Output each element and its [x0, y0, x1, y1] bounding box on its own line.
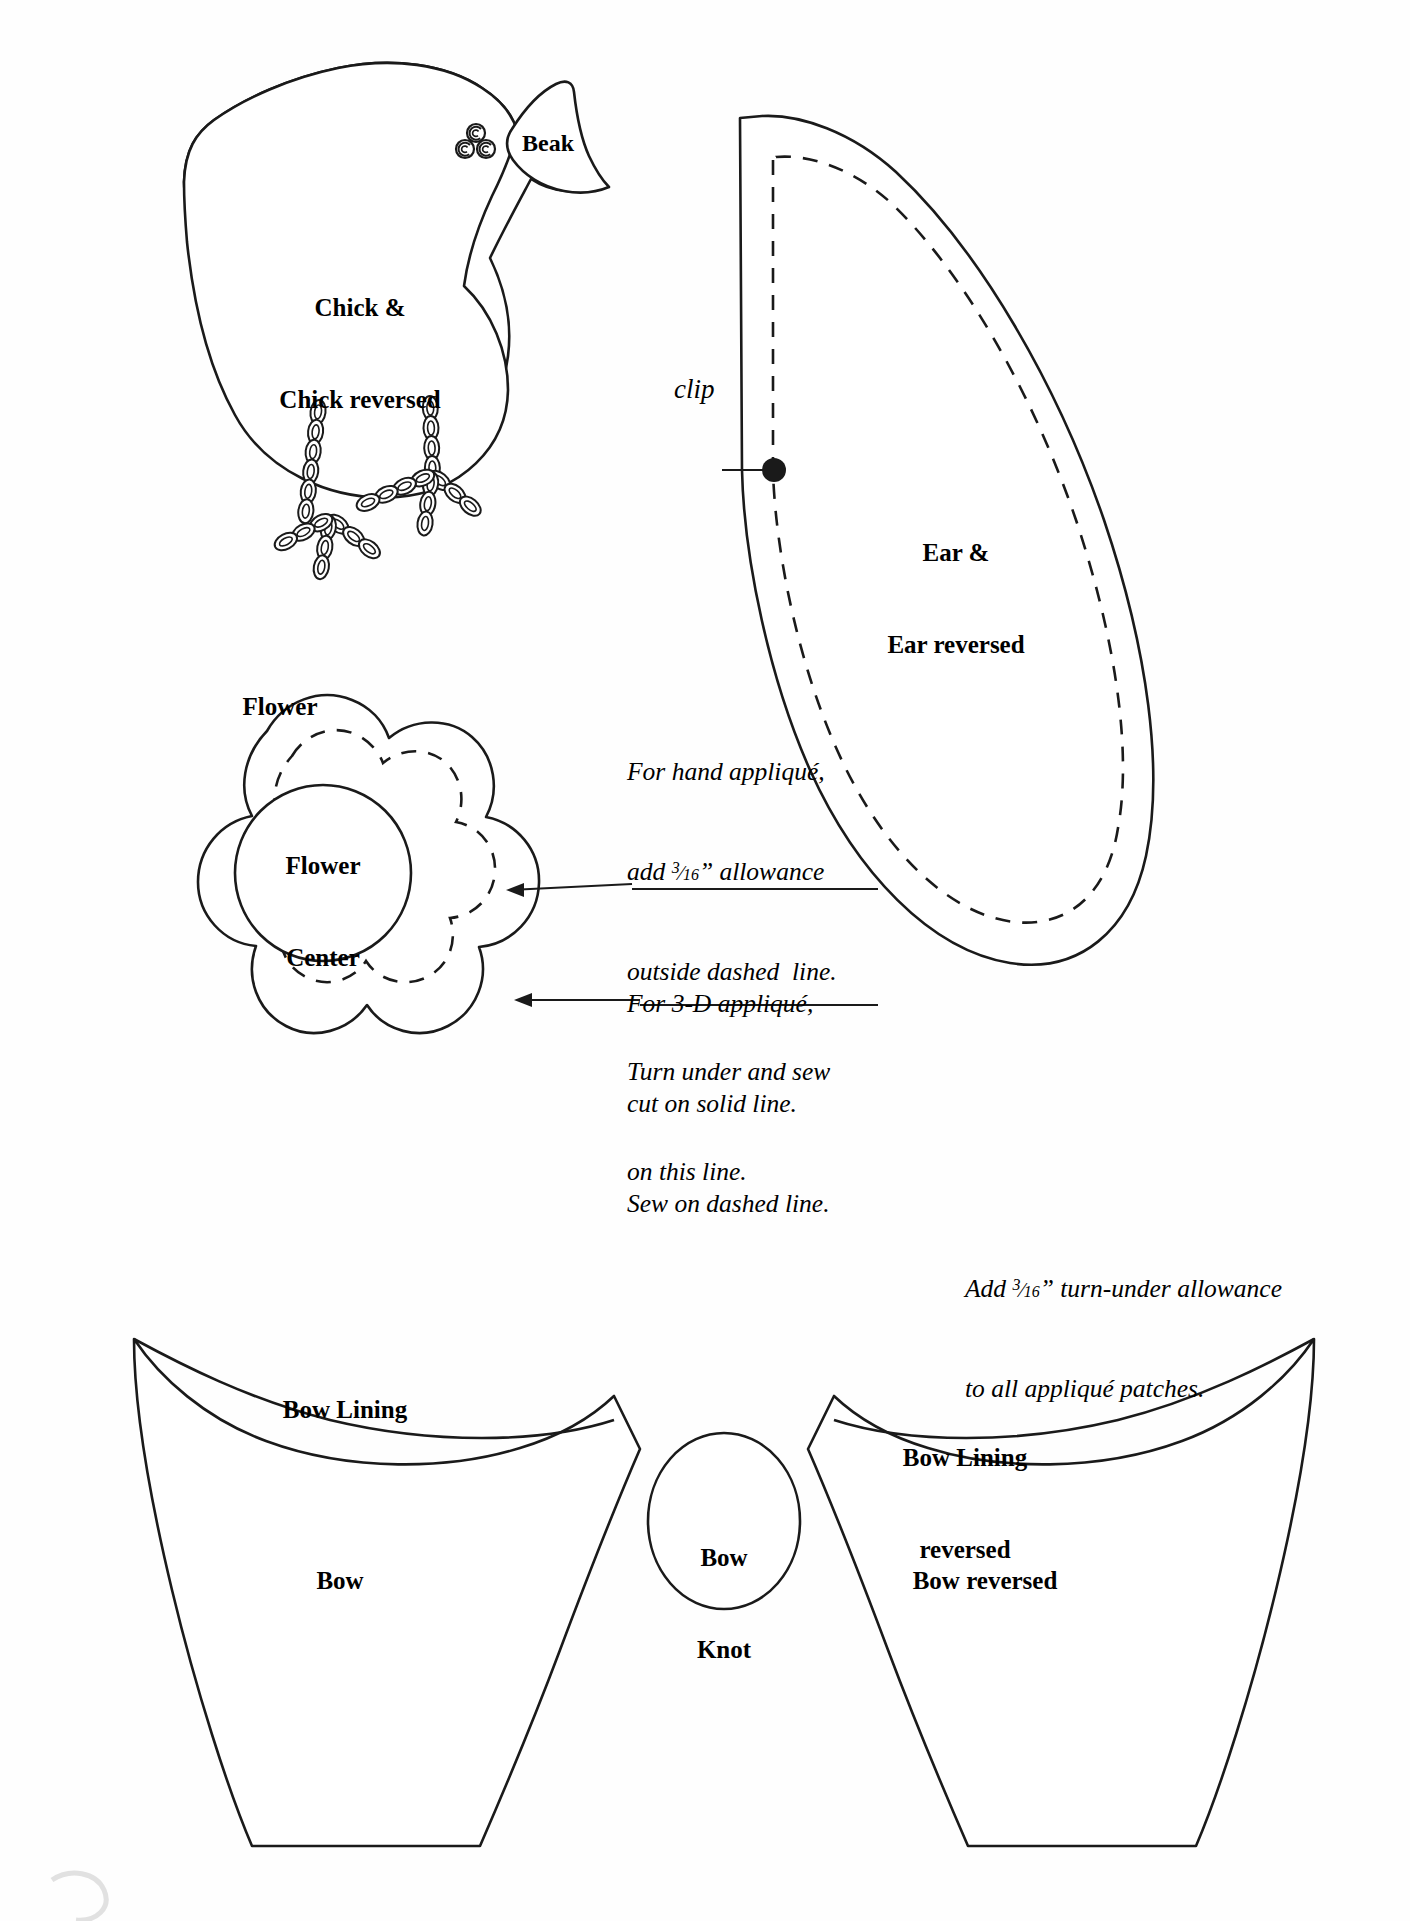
- fraction-denominator: 16: [683, 866, 699, 883]
- chick-label: Chick & Chick reversed: [255, 232, 465, 476]
- flower-center-label-line-1: Flower: [208, 851, 438, 882]
- flower-center-label-line-2: Center: [208, 943, 438, 974]
- flower-label: Flower: [200, 692, 360, 723]
- note-hand-applique-line-2-pre: add: [627, 857, 672, 886]
- chick-eye-icon: [456, 124, 495, 158]
- note-3d-applique: For 3-D appliqué, cut on solid line. Sew…: [627, 920, 897, 1287]
- ear-label: Ear & Ear reversed: [845, 477, 1067, 721]
- chick-label-line-1: Chick &: [255, 293, 465, 324]
- pattern-sheet: Chick & Chick reversed Beak Ear & Ear re…: [0, 0, 1410, 1921]
- chick-label-line-2: Chick reversed: [255, 385, 465, 416]
- ear-label-line-2: Ear reversed: [845, 630, 1067, 661]
- bow-left-label: Bow: [275, 1566, 405, 1597]
- fraction-numerator: 3: [672, 859, 680, 876]
- note-global-allowance-line-1-post: ” turn-under allowance: [1040, 1274, 1282, 1303]
- bow-knot-label-line-2: Knot: [654, 1635, 794, 1666]
- fraction-numerator-global: 3: [1012, 1276, 1020, 1293]
- bow-knot-label-line-1: Bow: [654, 1543, 794, 1574]
- bow-knot-label: Bow Knot: [654, 1482, 794, 1726]
- note-global-allowance-line-1: Add 3⁄16” turn-under allowance: [965, 1272, 1365, 1305]
- bow-lining-reversed-label-line-1: Bow Lining: [840, 1443, 1090, 1474]
- bow-lining-reversed-label-line-2: reversed: [840, 1535, 1090, 1566]
- note-hand-applique-line-2-post: ” allowance: [699, 857, 824, 886]
- note-3d-applique-line-3: Sew on dashed line.: [627, 1187, 897, 1220]
- bow-lining-label: Bow Lining: [230, 1395, 460, 1426]
- ear-clip-label: clip: [674, 374, 715, 405]
- scan-corner-artifact: [52, 1873, 106, 1920]
- beak-label: Beak: [508, 129, 588, 158]
- note-global-allowance-line-1-pre: Add: [965, 1274, 1012, 1303]
- note-hand-applique-line-1: For hand appliqué,: [627, 755, 897, 788]
- bow-right-label: Bow reversed: [860, 1566, 1110, 1597]
- ear-clip-marker: [722, 458, 786, 482]
- flower-center-label: Flower Center: [208, 790, 438, 1034]
- fraction-denominator-global: 16: [1024, 1283, 1040, 1300]
- ear-label-line-1: Ear &: [845, 538, 1067, 569]
- fraction-three-sixteenths-global: 3⁄16: [1012, 1279, 1039, 1301]
- note-3d-applique-line-1: For 3-D appliqué,: [627, 987, 897, 1020]
- note-3d-applique-line-2: cut on solid line.: [627, 1087, 897, 1120]
- fraction-three-sixteenths: 3⁄16: [672, 862, 699, 884]
- note-hand-applique-line-2: add 3⁄16” allowance: [627, 855, 897, 888]
